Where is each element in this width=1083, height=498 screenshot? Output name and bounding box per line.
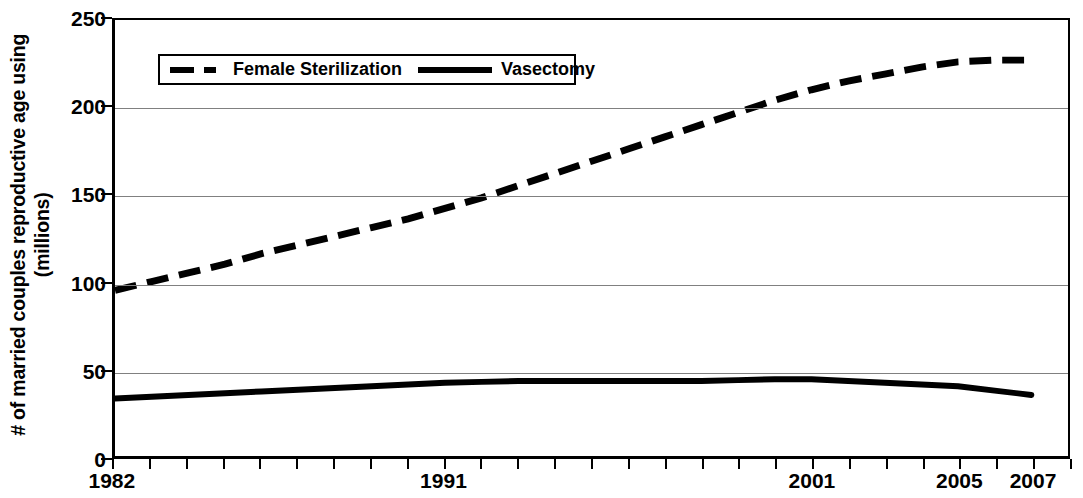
x-axis-tick-mark (628, 459, 630, 469)
x-axis-tick-mark (591, 459, 593, 469)
x-axis-tick-mark (849, 459, 851, 469)
y-axis-tick-label: 100 (54, 272, 106, 293)
y-axis-tick-mark (101, 370, 112, 372)
x-axis-tick-mark (665, 459, 667, 469)
y-axis-tick-mark (101, 458, 112, 460)
y-axis-tick-label: 200 (54, 96, 106, 117)
y-axis-tick-label: 50 (54, 360, 106, 381)
x-axis-tick-mark (444, 459, 446, 469)
x-axis-tick-mark (223, 459, 225, 469)
legend-label-female-sterilization: Female Sterilization (233, 59, 402, 80)
chart-legend: Female Sterilization Vasectomy (158, 54, 576, 85)
x-axis-tick-label: 1991 (420, 470, 467, 491)
series-female-sterilization-line (115, 60, 1031, 290)
x-axis-tick-mark (702, 459, 704, 469)
gridline (115, 196, 1068, 197)
data-lines (115, 20, 1068, 456)
y-axis-tick-mark (101, 282, 112, 284)
legend-label-vasectomy: Vasectomy (501, 59, 595, 80)
gridline (115, 373, 1068, 374)
y-axis-tick-mark (101, 105, 112, 107)
legend-item-vasectomy: Vasectomy (418, 59, 595, 80)
solid-line-swatch-icon (418, 67, 492, 73)
x-axis-tick-mark (886, 459, 888, 469)
x-axis-tick-mark (149, 459, 151, 469)
x-axis-tick-mark (186, 459, 188, 469)
x-axis-tick-mark (259, 459, 261, 469)
y-axis-tick-mark (101, 193, 112, 195)
y-axis-tick-label: 0 (54, 449, 106, 470)
x-axis-ticks (112, 459, 1070, 470)
y-axis-tick-label: 250 (54, 8, 106, 29)
x-axis-tick-label: 1982 (89, 470, 136, 491)
y-axis-tick-label: 150 (54, 184, 106, 205)
series-vasectomy-line (115, 379, 1031, 398)
y-axis-tick-mark (101, 17, 112, 19)
x-axis-tick-label: 2007 (1010, 470, 1057, 491)
x-axis-tick-mark (775, 459, 777, 469)
legend-item-female-sterilization: Female Sterilization (170, 59, 402, 80)
gridline (115, 108, 1068, 109)
x-axis-tick-mark (1033, 459, 1035, 469)
x-axis-tick-mark (296, 459, 298, 469)
x-axis-tick-mark (923, 459, 925, 469)
x-axis-tick-mark (959, 459, 961, 469)
x-axis-tick-mark (112, 459, 114, 469)
x-axis-tick-label: 2001 (789, 470, 836, 491)
chart-figure: # of married couples reproductive age us… (0, 0, 1083, 498)
gridline (115, 285, 1068, 286)
x-axis-tick-mark (554, 459, 556, 469)
x-axis-tick-mark (407, 459, 409, 469)
x-axis-tick-mark (517, 459, 519, 469)
y-axis-title-line1: # of married couples reproductive age us… (7, 34, 31, 436)
x-axis-tick-mark (480, 459, 482, 469)
x-axis-tick-mark (812, 459, 814, 469)
x-axis-tick-labels: 19821991200120052007 (0, 470, 1083, 498)
y-axis-tick-labels: 250200150100500 (48, 0, 106, 498)
x-axis-tick-mark (996, 459, 998, 469)
x-axis-tick-mark (370, 459, 372, 469)
x-axis-tick-label: 2005 (936, 470, 983, 491)
dashed-line-swatch-icon (170, 67, 224, 73)
x-axis-tick-mark (333, 459, 335, 469)
x-axis-tick-mark (1070, 459, 1072, 469)
x-axis-tick-mark (738, 459, 740, 469)
